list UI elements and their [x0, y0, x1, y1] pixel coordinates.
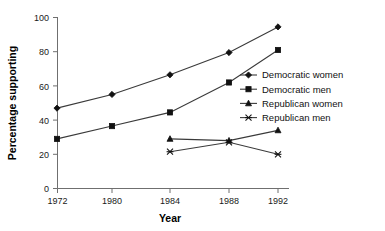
x-tick-label: 1972 [47, 196, 67, 206]
legend-label: Republican men [262, 112, 331, 123]
line-chart: 100 80 60 40 20 0 1972 1980 1984 1988 19… [0, 0, 385, 231]
legend-label: Republican women [262, 98, 343, 109]
x-axis-title: Year [159, 212, 181, 224]
y-axis-ticks [53, 18, 58, 189]
y-tick-label: 40 [39, 116, 49, 126]
data-point [275, 24, 281, 30]
x-axis-ticks [58, 189, 279, 194]
data-point [275, 47, 280, 52]
data-point [246, 87, 251, 92]
plot-area: 100 80 60 40 20 0 1972 1980 1984 1988 19… [0, 0, 385, 231]
x-tick-label: 1992 [268, 196, 288, 206]
data-point [275, 151, 282, 157]
y-tick-label: 80 [39, 47, 49, 57]
y-axis-title: Percentage supporting [6, 46, 18, 160]
data-point [226, 49, 232, 55]
series-democratic-men [54, 47, 280, 141]
legend-label: Democratic men [262, 84, 331, 95]
data-point [109, 123, 114, 128]
legend-item-republican-men[interactable]: Republican men [240, 112, 331, 123]
x-tick-label: 1980 [102, 196, 122, 206]
legend-item-democratic-men[interactable]: Democratic men [240, 84, 331, 95]
data-point [245, 72, 251, 78]
legend-label: Democratic women [262, 69, 343, 80]
data-point [226, 80, 231, 85]
data-point [109, 91, 115, 97]
legend-item-republican-women[interactable]: Republican women [240, 98, 343, 109]
data-point [275, 127, 281, 133]
x-tick-label: 1984 [160, 196, 180, 206]
chart-legend: Democratic womenDemocratic menRepublican… [240, 69, 343, 123]
data-point [167, 72, 173, 78]
y-tick-label: 0 [44, 184, 49, 194]
data-point [54, 105, 60, 111]
series-republican-women [167, 127, 281, 143]
data-point [245, 115, 252, 121]
series-republican-men [167, 139, 282, 157]
data-point [54, 136, 59, 141]
y-tick-label: 100 [34, 13, 49, 23]
data-point [167, 149, 174, 155]
series-democratic-women [54, 24, 281, 111]
legend-item-democratic-women[interactable]: Democratic women [240, 69, 343, 80]
x-tick-label: 1988 [219, 196, 239, 206]
y-tick-label: 20 [39, 150, 49, 160]
data-point [167, 110, 172, 115]
y-tick-label: 60 [39, 82, 49, 92]
